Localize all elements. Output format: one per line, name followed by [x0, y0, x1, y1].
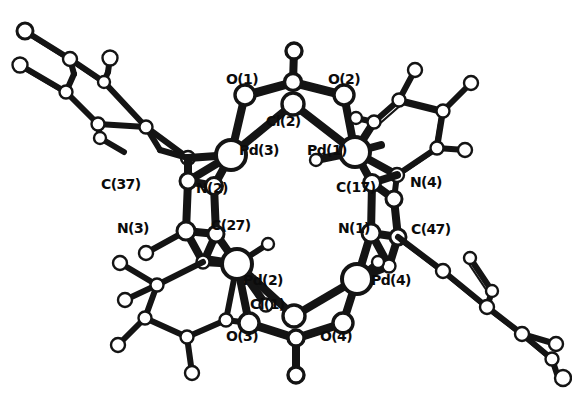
atom-label-o2: O(2): [328, 72, 360, 86]
atom-label-c47: C(47): [411, 222, 451, 236]
atom-label-pd1: Pd(1): [307, 143, 347, 157]
atom-label-c27: C(27): [211, 218, 251, 232]
background: [0, 0, 572, 407]
atom-label-o3: O(3): [226, 329, 258, 343]
atom-label-o4: O(4): [320, 329, 352, 343]
chloride-bridge-cl1: [283, 305, 305, 327]
atom-label-n3: N(3): [117, 221, 149, 235]
atom-label-pd4: Pd(4): [371, 273, 411, 287]
atom-label-n2: N(2): [196, 181, 228, 195]
atom-label-c37: C(37): [101, 177, 141, 191]
atom-label-cl2: Cl(2): [266, 114, 301, 128]
atom-label-pd3: Pd(3): [239, 143, 279, 157]
atom-label-n4: N(4): [410, 175, 442, 189]
atom-label-cl1: Cl(1): [250, 297, 285, 311]
atom-label-pd2: Pd(2): [243, 273, 283, 287]
molecular-structure-drawing: .bond { stroke:#141414; fill:none; strok…: [0, 0, 572, 407]
atom-label-o1: O(1): [226, 72, 258, 86]
figure-canvas: .bond { stroke:#141414; fill:none; strok…: [0, 0, 572, 407]
atom-label-c17: C(17): [336, 180, 376, 194]
atom-label-n1: N(1): [338, 221, 370, 235]
